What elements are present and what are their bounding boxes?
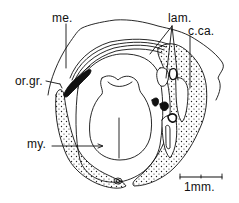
label-cca: c.ca.: [188, 25, 214, 37]
label-lam: lam.: [168, 12, 191, 24]
label-orgr: or.gr.: [15, 75, 43, 87]
scale-bar: [180, 174, 222, 179]
label-my: my.: [27, 138, 46, 150]
orgr-leader: [46, 81, 60, 84]
anatomical-figure: me. lam. c.ca. or.gr. my. 1mm.: [0, 0, 239, 203]
scale-bar-label: 1mm.: [184, 181, 215, 193]
label-me: me.: [52, 12, 73, 24]
